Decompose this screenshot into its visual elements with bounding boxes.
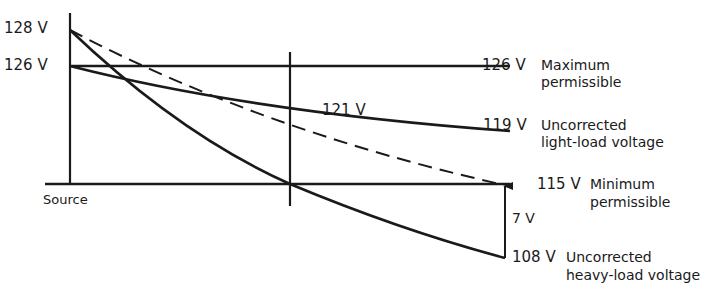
label-7v: 7 V xyxy=(512,210,535,226)
label-128v: 128 V xyxy=(4,20,48,36)
label-max-line2: permissible xyxy=(541,74,621,90)
label-max-line1: Maximum xyxy=(541,57,610,73)
label-min-line2: permissible xyxy=(590,194,670,210)
label-119v-right: 119 V xyxy=(483,117,527,133)
label-115v-right: 115 V xyxy=(537,176,581,192)
label-108v-right: 108 V xyxy=(512,249,556,265)
label-light-line2: light-load voltage xyxy=(541,134,664,150)
label-min-line1: Minimum xyxy=(590,176,655,192)
label-126v: 126 V xyxy=(4,57,48,73)
label-light-line1: Uncorrected xyxy=(541,117,627,133)
label-source: Source xyxy=(43,192,88,208)
label-126v-right: 126 V xyxy=(482,57,526,73)
label-heavy-line2: heavy-load voltage xyxy=(566,267,700,283)
heavy-load-curve xyxy=(70,30,505,258)
label-heavy-line1: Uncorrected xyxy=(566,249,652,265)
label-121v: 121 V xyxy=(322,102,366,118)
